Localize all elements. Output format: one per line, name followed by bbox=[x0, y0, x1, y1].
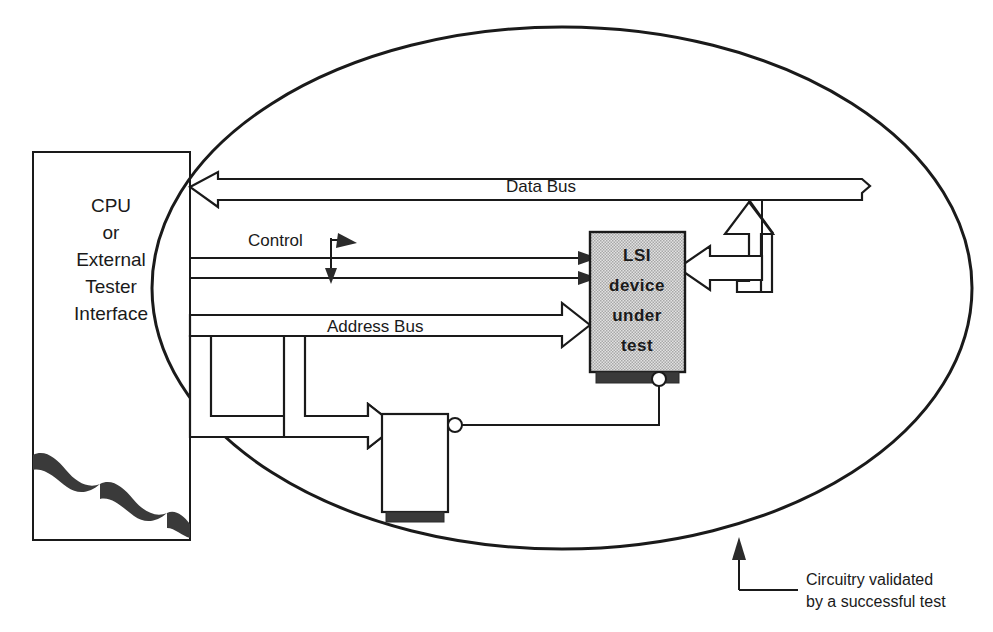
control-label: Control bbox=[248, 231, 303, 250]
cpu-label-line-2: External bbox=[76, 249, 146, 270]
caption-line-1: by a successful test bbox=[806, 593, 946, 610]
address-bus-branch-arrow bbox=[190, 336, 396, 448]
diagram-canvas: CPU or External Tester Interface Data Bu… bbox=[0, 0, 993, 632]
cpu-label-line-1: or bbox=[103, 222, 121, 243]
support-output-bubble bbox=[448, 418, 462, 432]
caption-leader bbox=[732, 537, 798, 590]
control-signal-lines bbox=[190, 251, 598, 285]
cpu-label-line-4: Interface bbox=[74, 303, 148, 324]
lsi-label-line-3: test bbox=[621, 336, 653, 355]
cpu-label-line-0: CPU bbox=[91, 195, 131, 216]
cpu-label-line-3: Tester bbox=[85, 276, 137, 297]
lsi-label-line-1: device bbox=[609, 276, 665, 295]
diagram-svg: CPU or External Tester Interface Data Bu… bbox=[0, 0, 993, 632]
data-bus-label: Data Bus bbox=[506, 177, 576, 196]
support-to-lsi-wire bbox=[462, 386, 659, 425]
support-block bbox=[382, 414, 462, 522]
validation-boundary-ellipse bbox=[152, 27, 972, 549]
address-bus-label: Address Bus bbox=[327, 317, 423, 336]
lsi-label-line-2: under bbox=[612, 306, 662, 325]
lsi-label-line-0: LSI bbox=[623, 246, 651, 265]
lsi-output-bubble bbox=[652, 372, 666, 386]
caption-line-0: Circuitry validated bbox=[806, 571, 933, 588]
